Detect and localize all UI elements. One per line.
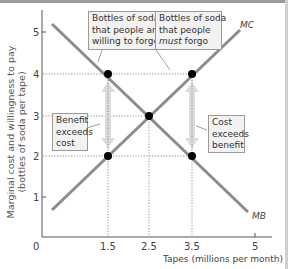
x-tick-5: 5 — [252, 241, 258, 252]
y-tick-1: 1 — [33, 192, 39, 203]
point-1-5-4 — [104, 70, 112, 78]
emphasis-must: must — [159, 36, 182, 46]
annotation-willing-to-forgo: Bottles of soda that people are willing … — [88, 11, 159, 50]
annotation-line: Bottles of soda — [159, 13, 218, 25]
y-axis-label-line2: (bottles of soda per tape) — [16, 71, 27, 192]
mb-label: MB — [252, 211, 266, 221]
origin-label: 0 — [33, 241, 39, 252]
annotation-line: exceeds — [56, 127, 84, 139]
annotation-line: exceeds — [212, 129, 241, 141]
y-tick-4: 4 — [33, 69, 39, 80]
y-axis-label-line1: Marginal cost and willingness to pay — [5, 45, 16, 218]
annotation-line: willing to forgo — [92, 36, 155, 48]
annotation-cost-exceeds-benefit: Cost exceeds benefit — [208, 115, 245, 153]
annotation-must-forgo: Bottles of soda that people must forgo — [155, 11, 222, 50]
annotation-line: Benefit — [56, 115, 84, 127]
mc-label: MC — [240, 20, 255, 30]
annotation-line: that people — [159, 25, 218, 37]
y-tick-3: 3 — [33, 111, 39, 122]
x-tick-2-5: 2.5 — [141, 241, 157, 252]
annotation-line: Bottles of soda — [92, 13, 155, 25]
annotation-text: forgo — [182, 36, 208, 46]
y-tick-5: 5 — [33, 27, 39, 38]
point-equilibrium — [145, 112, 153, 120]
annotation-line: Cost — [212, 117, 241, 129]
annotation-line: that people are — [92, 25, 155, 37]
point-3-5-4 — [188, 70, 196, 78]
annotation-line: cost — [56, 138, 84, 150]
annotation-line: must forgo — [159, 36, 218, 48]
point-3-5-2 — [188, 152, 196, 160]
annotation-benefit-exceeds-cost: Benefit exceeds cost — [52, 113, 88, 151]
annotation-line: benefit — [212, 140, 241, 152]
y-axis-label: Marginal cost and willingness to pay (bo… — [5, 45, 27, 218]
x-axis-label: Tapes (millions per month) — [162, 254, 283, 264]
x-tick-3-5: 3.5 — [184, 241, 200, 252]
y-tick-2: 2 — [33, 151, 39, 162]
point-1-5-2 — [104, 152, 112, 160]
x-tick-1-5: 1.5 — [100, 241, 116, 252]
